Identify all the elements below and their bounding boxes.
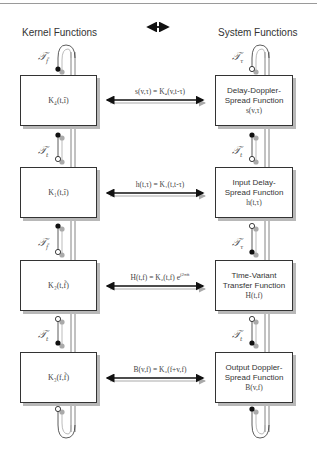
- right-operator-4: 𝒯t: [232, 328, 242, 342]
- system-box-input-delay-spread: Input Delay- Spread Function h(t,τ): [215, 167, 293, 218]
- relation-arrow-1: [107, 100, 205, 103]
- system-name-line1: Input Delay-: [232, 178, 275, 188]
- right-operator-3: 𝒯τ: [232, 236, 243, 250]
- system-name-line2: Spread Function: [225, 188, 284, 198]
- kernel-box-1: K₄(t,î): [20, 75, 97, 126]
- kernel-box-2: K₁(t,î): [20, 167, 97, 218]
- system-name-line1: Time-Variant: [232, 271, 277, 281]
- kernel-box-4: K₃(f,f̃): [20, 352, 97, 403]
- kernel-label: K₂(t,f̃): [48, 281, 69, 290]
- relation-arrow-4: [107, 378, 205, 381]
- system-name-line1: Delay-Doppler-: [227, 86, 281, 96]
- left-operator-4: 𝒯t: [38, 328, 48, 342]
- system-name-line1: Output Doppler-: [226, 363, 283, 373]
- system-name-line2: Spread Function: [225, 373, 284, 383]
- system-box-delay-doppler-spread: Delay-Doppler- Spread Function s(v,τ): [215, 75, 293, 126]
- relation-equation-3: H(t,f) = K₂(t,f) ej2πft: [110, 272, 210, 282]
- left-operator-2: 𝒯t: [38, 144, 48, 158]
- kernel-label: K₄(t,î): [48, 96, 68, 105]
- relation-arrow-2: [107, 193, 205, 196]
- right-operator-1: 𝒯τ: [232, 50, 243, 64]
- left-operator-3: 𝒯f̃: [38, 236, 48, 250]
- relation-equation-4: B(v,f) = K₃(f+v,f): [110, 365, 210, 374]
- relation-arrow-3: [107, 286, 205, 289]
- kernel-label: K₃(f,f̃): [48, 373, 69, 382]
- system-box-output-doppler-spread: Output Doppler- Spread Function B(v,f): [215, 352, 293, 403]
- system-symbol: H(t,f): [246, 291, 263, 301]
- relation-arrows: [107, 100, 205, 381]
- system-name-line2: Spread Function: [225, 96, 284, 106]
- relation-equation-2: h(t,τ) = K₁(t,t-τ): [110, 180, 210, 189]
- system-name-line2: Transfer Function: [223, 281, 285, 291]
- left-operator-1: 𝒯f̃: [38, 50, 48, 64]
- right-operator-2: 𝒯t: [232, 144, 242, 158]
- system-symbol: s(v,τ): [246, 106, 262, 116]
- kernel-label: K₁(t,î): [48, 188, 68, 197]
- kernel-box-3: K₂(t,f̃): [20, 260, 97, 311]
- system-box-time-variant-transfer: Time-Variant Transfer Function H(t,f): [215, 260, 293, 311]
- system-symbol: h(t,τ): [246, 198, 262, 208]
- relation-equation-1: s(v,τ) = K₄(v,t-τ): [110, 87, 210, 96]
- system-symbol: B(v,f): [245, 383, 263, 393]
